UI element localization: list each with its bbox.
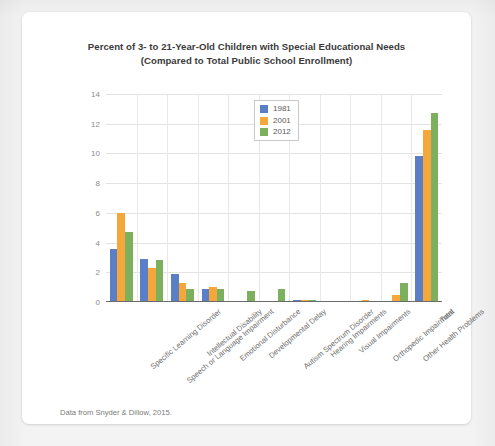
- bar-2012: [400, 283, 408, 302]
- legend-swatch-icon: [260, 105, 268, 113]
- legend-label: 2012: [273, 128, 291, 136]
- chart-title-line-2: (Compared to Total Public School Enrollm…: [52, 54, 441, 68]
- y-axis-tick-label: 14: [91, 90, 100, 99]
- chart-title: Percent of 3- to 21-Year-Old Children wi…: [52, 40, 441, 67]
- bar-2001: [423, 130, 431, 302]
- bar-group: [106, 94, 137, 302]
- legend-item: 2012: [260, 128, 291, 136]
- x-axis-line: [106, 301, 442, 302]
- chart-legend: 198120012012: [254, 100, 299, 141]
- legend-swatch-icon: [260, 128, 268, 136]
- legend-item: 2001: [260, 117, 291, 125]
- bar-2012: [125, 232, 133, 302]
- chart-title-line-1: Percent of 3- to 21-Year-Old Children wi…: [52, 40, 441, 54]
- bar-group: [137, 94, 168, 302]
- bar-1981: [415, 156, 423, 302]
- y-axis-tick-label: 10: [91, 149, 100, 158]
- legend-item: 1981: [260, 105, 291, 113]
- page-root: Percent of 3- to 21-Year-Old Children wi…: [0, 0, 495, 446]
- y-axis-tick-label: 4: [96, 238, 100, 247]
- bar-group: [320, 94, 351, 302]
- y-axis-tick-label: 0: [96, 298, 100, 307]
- y-axis-tick-label: 8: [96, 179, 100, 188]
- bar-group: [411, 94, 442, 302]
- bar-2012: [156, 260, 164, 302]
- y-axis-tick-label: 2: [96, 268, 100, 277]
- bar-1981: [110, 249, 118, 302]
- bar-1981: [140, 259, 148, 302]
- figure-card: Percent of 3- to 21-Year-Old Children wi…: [22, 12, 471, 424]
- bar-2012: [278, 289, 286, 302]
- bar-2001: [209, 287, 217, 302]
- bar-1981: [171, 274, 179, 302]
- legend-label: 2001: [273, 117, 291, 125]
- bar-group: [381, 94, 412, 302]
- source-note: Data from Snyder & Dillow, 2015.: [60, 408, 172, 417]
- bar-2001: [148, 268, 156, 302]
- bar-2001: [179, 283, 187, 302]
- bar-group: [350, 94, 381, 302]
- y-axis-tick-label: 6: [96, 208, 100, 217]
- bar-2001: [117, 213, 125, 302]
- bar-group: [167, 94, 198, 302]
- bar-group: [198, 94, 229, 302]
- legend-label: 1981: [273, 105, 291, 113]
- legend-swatch-icon: [260, 117, 268, 125]
- bar-2012: [217, 289, 225, 302]
- bar-2012: [431, 113, 439, 302]
- y-axis-tick-label: 12: [91, 119, 100, 128]
